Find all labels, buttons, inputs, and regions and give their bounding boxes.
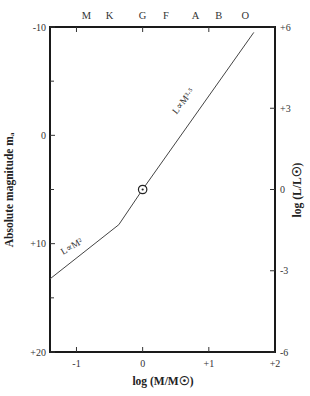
annotations: L∝M²L∝M³·⁵ — [59, 86, 197, 257]
spectral-class-o: O — [241, 10, 249, 21]
right-y-axis-title: log (L/L☉) — [291, 162, 304, 217]
axis-ticks: -10+1+2-100+10+20+6+30-3-6 — [30, 22, 290, 370]
right-tick-label: +3 — [280, 103, 291, 114]
x-tick-label: +2 — [270, 358, 281, 369]
plot-frame — [50, 27, 275, 352]
spectral-class-a: A — [192, 10, 200, 21]
x-tick-label: +1 — [204, 358, 215, 369]
spectral-class-b: B — [215, 10, 222, 21]
left-y-axis-title: Absolute magnitude mₐ — [3, 132, 16, 247]
relation-annotation: L∝M³·⁵ — [170, 86, 196, 116]
sun-icon — [138, 185, 146, 193]
x-tick-label: 0 — [140, 358, 145, 369]
left-tick-label: +10 — [30, 238, 46, 249]
left-tick-label: 0 — [41, 130, 46, 141]
right-tick-label: -6 — [280, 347, 288, 358]
plot-border — [50, 27, 275, 352]
spectral-class-m: M — [82, 10, 92, 21]
left-tick-label: -10 — [33, 22, 46, 33]
spectral-class-k: K — [106, 10, 114, 21]
mass-luminosity-chart: -10+1+2-100+10+20+6+30-3-6 MKGFABO L∝M²L… — [0, 0, 310, 396]
right-tick-label: 0 — [280, 184, 285, 195]
x-axis-title: log (M/M☉) — [132, 375, 193, 388]
spectral-class-g: G — [139, 10, 147, 21]
right-tick-label: +6 — [280, 22, 291, 33]
right-tick-label: -3 — [280, 265, 288, 276]
relation-annotation: L∝M² — [59, 236, 85, 256]
x-tick-label: -1 — [72, 358, 80, 369]
left-tick-label: +20 — [30, 347, 46, 358]
spectral-class-f: F — [163, 10, 169, 21]
spectral-class-labels: MKGFABO — [82, 10, 250, 21]
